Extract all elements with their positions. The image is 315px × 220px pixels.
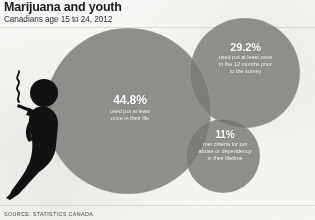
- page-subtitle: Canadians age 15 to 24, 2012: [4, 15, 122, 25]
- infographic-canvas: Marijuana and youth Canadians age 15 to …: [0, 0, 315, 220]
- bubble-texture: [45, 18, 300, 194]
- source-credit: SOURCE: STATISTICS CANADA: [4, 211, 93, 217]
- smoking-youth-silhouette-icon: [0, 62, 76, 202]
- smoke-icon: [17, 71, 19, 102]
- page-title: Marijuana and youth: [4, 1, 122, 14]
- silhouette-head: [30, 79, 58, 107]
- header-divider: [0, 27, 315, 28]
- header: Marijuana and youth Canadians age 15 to …: [4, 1, 122, 25]
- joint-icon: [17, 104, 31, 112]
- footer-divider: [0, 205, 315, 206]
